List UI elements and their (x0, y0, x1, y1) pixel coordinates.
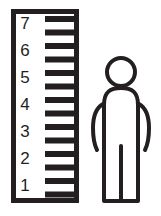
ruler-tick (45, 70, 77, 76)
ruler-tick (45, 30, 77, 36)
ruler-tick (45, 178, 77, 184)
person-head-icon (107, 58, 135, 86)
height-chart-illustration: 7 6 5 4 3 2 1 (0, 0, 161, 216)
ruler-number-3: 3 (20, 122, 29, 141)
ruler-number-7: 7 (20, 14, 29, 33)
standing-person-figure (93, 58, 149, 201)
person-left-arm (93, 104, 103, 150)
illustration-canvas: 7 6 5 4 3 2 1 (0, 0, 161, 216)
ruler-tick (45, 97, 77, 103)
ruler-number-2: 2 (20, 149, 29, 168)
ruler-tick (45, 138, 77, 144)
ruler-tick (45, 16, 77, 22)
person-torso (104, 88, 138, 133)
ruler-number-4: 4 (20, 95, 29, 114)
measuring-ruler: 7 6 5 4 3 2 1 (14, 12, 78, 201)
ruler-tick (45, 124, 77, 130)
ruler-tick (45, 165, 77, 171)
ruler-tick (45, 151, 77, 157)
ruler-tick (45, 192, 77, 198)
ruler-tick (45, 57, 77, 63)
ruler-tick (45, 111, 77, 117)
ruler-tick-group (45, 16, 77, 198)
person-right-arm (139, 104, 149, 150)
ruler-number-group: 7 6 5 4 3 2 1 (20, 14, 29, 195)
ruler-tick (45, 84, 77, 90)
ruler-number-1: 1 (20, 176, 29, 195)
ruler-number-5: 5 (20, 68, 29, 87)
ruler-number-6: 6 (20, 41, 29, 60)
ruler-tick (45, 43, 77, 49)
